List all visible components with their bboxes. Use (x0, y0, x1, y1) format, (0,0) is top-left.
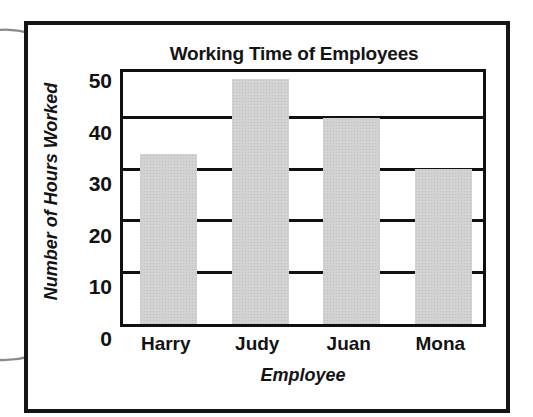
bar (232, 79, 289, 324)
plot-inner (123, 72, 483, 324)
bar-chart: Working Time of Employees Number of Hour… (24, 21, 510, 413)
x-tick-label: Harry (141, 333, 191, 355)
plot-area (120, 69, 486, 327)
chart-page: Working Time of Employees Number of Hour… (0, 0, 533, 417)
x-tick-label: Judy (235, 333, 279, 355)
bar (140, 154, 197, 324)
x-tick-label: Mona (415, 333, 465, 355)
chart-title: Working Time of Employees (84, 43, 504, 65)
y-axis-title: Number of Hours Worked (41, 77, 62, 307)
gridline (120, 116, 486, 119)
x-axis-title: Employee (120, 365, 486, 386)
bar (323, 118, 380, 324)
x-tick-label: Juan (327, 333, 371, 355)
bar (415, 169, 472, 324)
